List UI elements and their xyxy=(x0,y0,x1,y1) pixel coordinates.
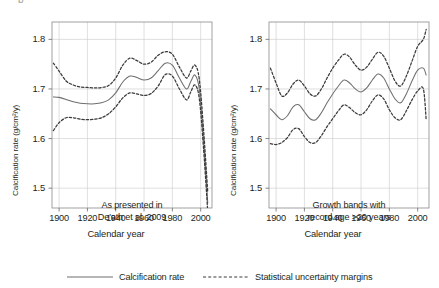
x-axis-label-left: Calendar year xyxy=(56,229,176,239)
figure-calcification-rate: b Calcification rate (g/cm²/y) Calendar … xyxy=(0,0,439,288)
y-tick-label: 1.8 xyxy=(19,33,45,44)
y-tick-label: 1.7 xyxy=(19,83,45,94)
legend-item-uncertainty-margins: Statistical uncertainty margins xyxy=(203,272,249,282)
y-tick-label: 1.7 xyxy=(236,83,262,94)
legend-label-uncertainty-margins: Statistical uncertainty margins xyxy=(255,272,372,282)
y-tick-label: 1.6 xyxy=(19,133,45,144)
y-tick-label: 1.6 xyxy=(236,133,262,144)
x-axis-label-right: Calendar year xyxy=(273,229,393,239)
legend-swatch-solid xyxy=(67,272,113,282)
y-tick-label: 1.5 xyxy=(19,182,45,193)
chart-panel-left: Calcification rate (g/cm²/y) Calendar ye… xyxy=(0,0,222,245)
legend-label-calcification-rate: Calcification rate xyxy=(119,272,184,282)
legend-swatch-dashed xyxy=(203,272,249,282)
panel-annotation: Growth bands withrecord age >20 years xyxy=(274,200,424,223)
chart-panel-right: Calcification rate (g/cm²/y) Calendar ye… xyxy=(218,0,439,245)
y-tick-label: 1.8 xyxy=(236,33,262,44)
legend-item-calcification-rate: Calcification rate xyxy=(67,272,113,282)
y-tick-label: 1.5 xyxy=(236,182,262,193)
chart-legend: Calcification rate Statistical uncertain… xyxy=(0,258,439,284)
panel-annotation: As presented inDe'ath et al. 2009 xyxy=(57,200,207,223)
